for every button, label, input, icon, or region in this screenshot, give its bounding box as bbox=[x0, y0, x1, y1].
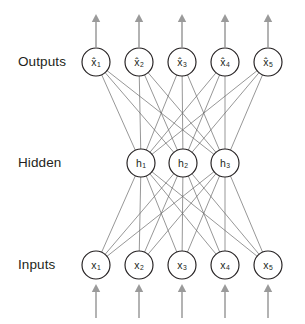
input-arrow-5-head bbox=[264, 284, 272, 292]
node-hid-2[interactable]: h2 bbox=[169, 149, 197, 177]
edge-hid-2-to-out-5 bbox=[192, 73, 259, 153]
node-in-2[interactable]: x2 bbox=[125, 251, 153, 279]
input-arrow-2-head bbox=[135, 284, 143, 292]
node-in-5[interactable]: x5 bbox=[254, 251, 282, 279]
edge-in-5-to-hid-3 bbox=[230, 176, 262, 252]
node-out-3[interactable]: x̂3 bbox=[168, 48, 196, 76]
input-arrow-1-head bbox=[92, 284, 100, 292]
edge-hid-1-to-out-5 bbox=[152, 71, 257, 155]
node-out-1[interactable]: x̂1 bbox=[82, 48, 110, 76]
output-arrow-1-head bbox=[92, 14, 100, 22]
output-arrow-2-head bbox=[135, 14, 143, 22]
input-arrow-2 bbox=[135, 284, 143, 318]
autoencoder-diagram: x̂1x̂2x̂3x̂4x̂5h1h2h3x1x2x3x4x5 OutputsH… bbox=[0, 0, 305, 324]
edge-hid-3-to-out-1 bbox=[107, 71, 214, 155]
input-arrow-1 bbox=[92, 284, 100, 318]
edge-hid-3-to-out-5 bbox=[230, 75, 262, 150]
node-in-3[interactable]: x3 bbox=[168, 251, 196, 279]
layer-labels-group: OutputsHiddenInputs bbox=[18, 54, 66, 272]
layer-label-hidden: Hidden bbox=[18, 155, 61, 170]
output-arrow-2 bbox=[135, 14, 143, 47]
edge-in-5-to-hid-2 bbox=[192, 174, 259, 254]
input-arrow-4-head bbox=[221, 284, 229, 292]
output-arrow-4 bbox=[221, 14, 229, 47]
input-arrow-3-head bbox=[178, 284, 186, 292]
input-arrow-3 bbox=[178, 284, 186, 318]
output-arrow-5 bbox=[264, 14, 272, 47]
node-hid-1[interactable]: h1 bbox=[127, 149, 155, 177]
node-hid-3[interactable]: h3 bbox=[211, 149, 239, 177]
edge-hid-1-to-out-1 bbox=[102, 75, 136, 150]
output-arrow-5-head bbox=[264, 14, 272, 22]
network-svg: x̂1x̂2x̂3x̂4x̂5h1h2h3x1x2x3x4x5 OutputsH… bbox=[0, 0, 305, 324]
edge-in-5-to-hid-1 bbox=[152, 172, 257, 256]
edge-in-1-to-hid-1 bbox=[102, 176, 136, 252]
layer-label-inputs: Inputs bbox=[18, 257, 56, 272]
output-arrow-4-head bbox=[221, 14, 229, 22]
node-in-4[interactable]: x4 bbox=[211, 251, 239, 279]
input-arrow-5 bbox=[264, 284, 272, 318]
layer-label-outputs: Outputs bbox=[18, 54, 66, 69]
node-out-4[interactable]: x̂4 bbox=[211, 48, 239, 76]
input-arrow-4 bbox=[221, 284, 229, 318]
node-out-2[interactable]: x̂2 bbox=[125, 48, 153, 76]
node-in-1[interactable]: x1 bbox=[82, 251, 110, 279]
output-arrow-3-head bbox=[178, 14, 186, 22]
edge-in-1-to-hid-3 bbox=[107, 172, 214, 257]
output-arrow-1 bbox=[92, 14, 100, 47]
output-arrow-3 bbox=[178, 14, 186, 47]
node-out-5[interactable]: x̂5 bbox=[254, 48, 282, 76]
